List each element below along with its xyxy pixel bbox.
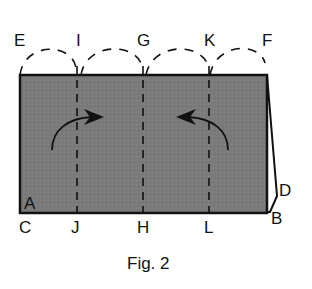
fold-arc-e-i [20, 49, 76, 75]
label-i: I [76, 31, 81, 50]
label-h: H [137, 218, 149, 237]
label-g: G [137, 31, 150, 50]
label-f: F [262, 31, 272, 50]
label-e: E [14, 31, 25, 50]
fold-arc-k-f [210, 48, 265, 75]
label-l: L [204, 218, 213, 237]
label-b: B [271, 209, 282, 228]
figure-caption: Fig. 2 [127, 254, 170, 273]
label-c: C [19, 218, 31, 237]
label-j: J [71, 218, 80, 237]
label-a: A [24, 194, 36, 213]
label-k: K [204, 31, 216, 50]
fold-arc-g-k [146, 49, 208, 75]
label-d: D [279, 181, 291, 200]
fold-arc-i-g [81, 49, 142, 75]
fold-diagram: E I G K F A D B C J H L Fig. 2 [0, 0, 312, 289]
back-flap [267, 75, 277, 212]
